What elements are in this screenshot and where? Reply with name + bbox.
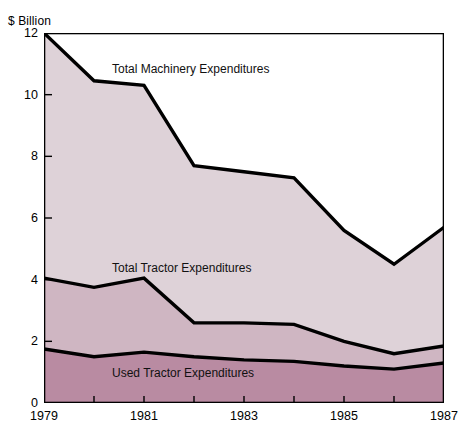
y-tick-12: 12 [12,26,38,40]
x-tick-1985: 1985 [330,409,358,423]
y-tick-10: 10 [12,88,38,102]
y-tick-0: 0 [12,396,38,410]
series-label-3: Used Tractor Expenditures [112,366,254,380]
y-tick-8: 8 [12,149,38,163]
chart-container: $ Billion 12 10 8 6 4 2 0 19791981198319… [0,0,473,437]
series-label-2: Total Tractor Expenditures [112,261,251,275]
chart-svg [44,33,444,403]
series-label-1: Total Machinery Expenditures [112,62,269,76]
x-tick-1979: 1979 [30,409,58,423]
plot-area [44,33,444,403]
y-tick-6: 6 [12,211,38,225]
y-tick-4: 4 [12,273,38,287]
y-tick-2: 2 [12,334,38,348]
x-tick-1981: 1981 [130,409,158,423]
x-tick-1987: 1987 [430,409,458,423]
x-tick-1983: 1983 [230,409,258,423]
area-layers [44,33,444,403]
y-axis-tick-labels: 12 10 8 6 4 2 0 [6,0,38,437]
